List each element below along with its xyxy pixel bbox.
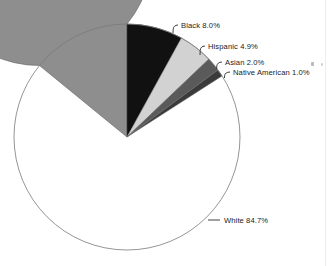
leader-line-black — [173, 25, 178, 33]
pie-label-hispanic: Hispanic 4.9% — [208, 42, 258, 51]
pie-label-asian: Asian 2.0% — [225, 58, 265, 67]
pie-label-black: Black 8.0% — [181, 21, 220, 30]
pie-slices — [0, 0, 240, 250]
leader-line-asian — [217, 62, 222, 69]
leader-line-native-american — [224, 72, 230, 78]
page-edge-line — [325, 0, 326, 266]
pie-label-white: White 84.7% — [224, 216, 268, 225]
scan-speck — [311, 62, 314, 66]
pie-chart-figure: Black 8.0% Hispanic 4.9% Asian 2.0% Nati… — [0, 0, 335, 266]
pie-label-native-american: Native American 1.0% — [233, 68, 310, 77]
pie-chart-svg: Black 8.0% Hispanic 4.9% Asian 2.0% Nati… — [0, 0, 335, 266]
scan-speck — [321, 63, 323, 66]
